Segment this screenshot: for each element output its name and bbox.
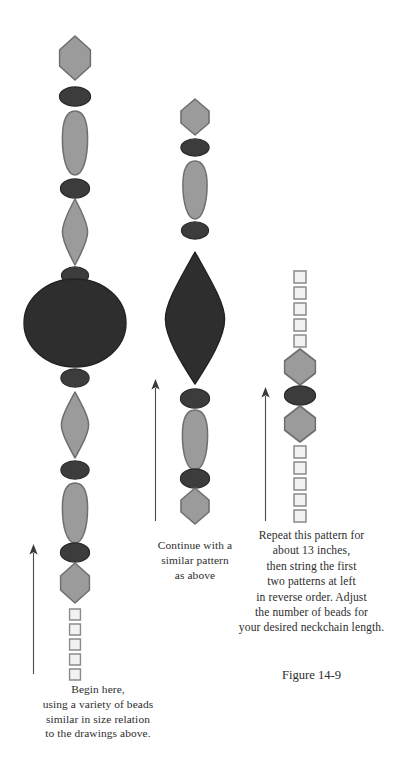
caption-right-line-5: in reverse order. Adjust bbox=[228, 590, 395, 605]
bead-hexagon-light bbox=[284, 405, 317, 443]
bead-ellipse-dark bbox=[180, 138, 210, 157]
bead-hexagon-light bbox=[180, 487, 210, 525]
bead-ellipse-dark bbox=[59, 86, 92, 107]
figure-label: Figure 14-9 bbox=[228, 668, 395, 683]
bead-teardrop-light bbox=[61, 482, 89, 544]
bead-square-outline bbox=[69, 653, 82, 666]
bead-square-outline bbox=[293, 334, 307, 348]
caption-right-line-7: your desired neckchain length. bbox=[228, 620, 395, 635]
bead-square-outline bbox=[293, 445, 307, 459]
caption-right-line-3: then string the first bbox=[228, 559, 395, 574]
bead-teardrop-light bbox=[181, 409, 209, 471]
direction-arrow-left bbox=[27, 543, 40, 675]
bead-large-circle-dark bbox=[23, 278, 127, 368]
bead-lens-light bbox=[61, 198, 89, 266]
bead-ellipse-dark bbox=[180, 388, 211, 409]
bead-ellipse-dark bbox=[60, 178, 91, 199]
direction-arrow-middle bbox=[149, 378, 162, 522]
caption-right-line-1: Repeat this pattern for bbox=[228, 528, 395, 543]
bead-square-outline bbox=[293, 461, 307, 475]
figure-canvas: Begin here, using a variety of beads sim… bbox=[0, 0, 395, 758]
bead-ellipse-dark bbox=[60, 368, 90, 388]
bead-square-outline bbox=[293, 509, 307, 523]
caption-left-line-2: using a variety of beads bbox=[0, 697, 196, 712]
bead-square-outline bbox=[293, 318, 307, 332]
direction-arrow-right bbox=[259, 386, 272, 522]
bead-ellipse-dark bbox=[181, 221, 210, 240]
bead-teardrop-light bbox=[61, 110, 89, 176]
caption-right-strand: Repeat this pattern for about 13 inches,… bbox=[228, 528, 395, 636]
bead-hexagon-light bbox=[60, 562, 91, 604]
bead-square-outline bbox=[69, 668, 82, 681]
caption-right-line-4: two patterns at left bbox=[228, 574, 395, 589]
bead-hexagon-light bbox=[180, 98, 210, 136]
bead-ellipse-dark bbox=[180, 468, 211, 489]
caption-left-strand: Begin here, using a variety of beads sim… bbox=[0, 682, 196, 741]
caption-right-line-2: about 13 inches, bbox=[228, 543, 395, 558]
caption-left-line-1: Begin here, bbox=[0, 682, 196, 697]
bead-square-outline bbox=[69, 608, 82, 621]
bead-square-outline bbox=[293, 302, 307, 316]
caption-right-line-6: the number of beads for bbox=[228, 605, 395, 620]
bead-ellipse-dark bbox=[60, 542, 91, 563]
bead-square-outline bbox=[293, 493, 307, 507]
bead-hexagon-light bbox=[284, 348, 317, 386]
bead-lens-light bbox=[60, 391, 90, 459]
bead-ellipse-dark bbox=[284, 385, 317, 406]
bead-large-lens-dark bbox=[164, 251, 226, 385]
caption-left-line-3: similar in size relation bbox=[0, 712, 196, 727]
bead-square-outline bbox=[293, 270, 307, 284]
bead-teardrop-light bbox=[182, 160, 209, 220]
bead-ellipse-dark bbox=[60, 460, 90, 480]
bead-square-outline bbox=[69, 623, 82, 636]
bead-square-outline bbox=[69, 638, 82, 651]
bead-square-outline bbox=[293, 477, 307, 491]
bead-hexagon-light bbox=[59, 35, 92, 81]
bead-square-outline bbox=[293, 286, 307, 300]
caption-left-line-4: to the drawings above. bbox=[0, 726, 196, 741]
